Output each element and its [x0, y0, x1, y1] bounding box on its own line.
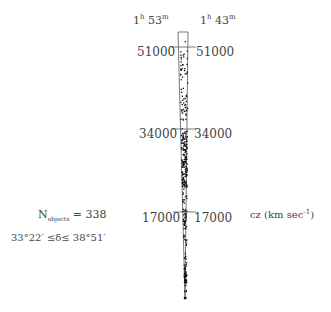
tick-label-right-34000: 34000: [194, 127, 232, 141]
tick-label-right-17000: 17000: [194, 211, 232, 225]
n-objects-label: Nobjects = 338: [38, 208, 107, 222]
tick-label-left-17000: 17000: [142, 211, 180, 225]
axis-label-cz: cz (km sec-1): [250, 208, 314, 220]
declination-range: 33°22′ ≤δ≤ 38°51′: [11, 232, 106, 243]
tick-label-left-51000: 51000: [137, 45, 175, 59]
tick-label-left-34000: 34000: [139, 127, 177, 141]
ra-left-label: 1h 53m: [133, 13, 169, 27]
tick-label-right-51000: 51000: [196, 45, 234, 59]
ra-right-label: 1h 43m: [200, 13, 236, 27]
